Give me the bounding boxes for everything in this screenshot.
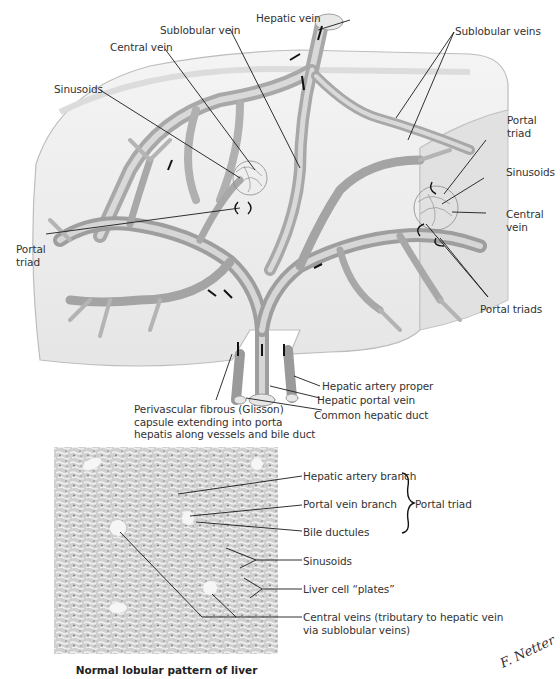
label-portal-triad-left: Portaltriad bbox=[16, 243, 46, 268]
label-sinusoids-right: Sinusoids bbox=[506, 166, 555, 179]
label-hepatic-artery-proper: Hepatic artery proper bbox=[322, 380, 433, 393]
label-sublobular-veins: Sublobular veins bbox=[455, 25, 541, 38]
label-bile-ductules: Bile ductules bbox=[303, 526, 369, 539]
label-portal-triad-group: Portal triad bbox=[415, 498, 472, 511]
figure-caption: Normal lobular pattern of liver bbox=[54, 664, 279, 676]
label-hepatic-vein: Hepatic vein bbox=[256, 12, 321, 25]
liver-illustration bbox=[0, 0, 560, 679]
label-glisson-capsule: Perivascular fibrous (Glisson)capsule ex… bbox=[134, 403, 315, 441]
label-portal-vein-branch: Portal vein branch bbox=[303, 498, 397, 511]
label-portal-triad-right: Portaltriad bbox=[507, 114, 537, 139]
label-sinusoids-left: Sinusoids bbox=[54, 83, 103, 96]
label-hepatic-artery-branch: Hepatic artery branch bbox=[303, 470, 416, 483]
label-central-vein: Central vein bbox=[110, 41, 173, 54]
label-common-hepatic-duct: Common hepatic duct bbox=[314, 409, 428, 422]
label-liver-cell-plates: Liver cell “plates” bbox=[303, 583, 395, 596]
micrograph-panel bbox=[54, 447, 278, 654]
label-sinusoids: Sinusoids bbox=[303, 555, 352, 568]
liver-figure: Hepatic vein Sublobular vein Central vei… bbox=[0, 0, 560, 679]
label-central-veins: Central veins (tributary to hepatic vein… bbox=[303, 611, 503, 636]
label-central-vein-right: Centralvein bbox=[506, 208, 544, 233]
label-portal-triads: Portal triads bbox=[480, 303, 542, 316]
label-sublobular-vein: Sublobular vein bbox=[160, 24, 240, 37]
label-hepatic-portal-vein: Hepatic portal vein bbox=[317, 394, 415, 407]
